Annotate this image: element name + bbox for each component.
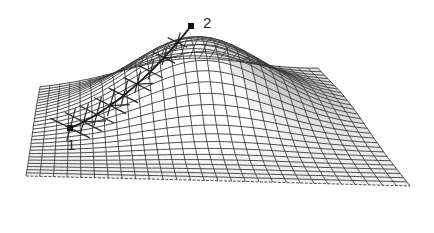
point-2-marker — [188, 23, 194, 29]
point-2-label: 2 — [203, 15, 211, 30]
point-1-label: 1 — [67, 137, 75, 152]
point-1-marker — [67, 125, 73, 131]
surface-plot — [0, 0, 434, 233]
